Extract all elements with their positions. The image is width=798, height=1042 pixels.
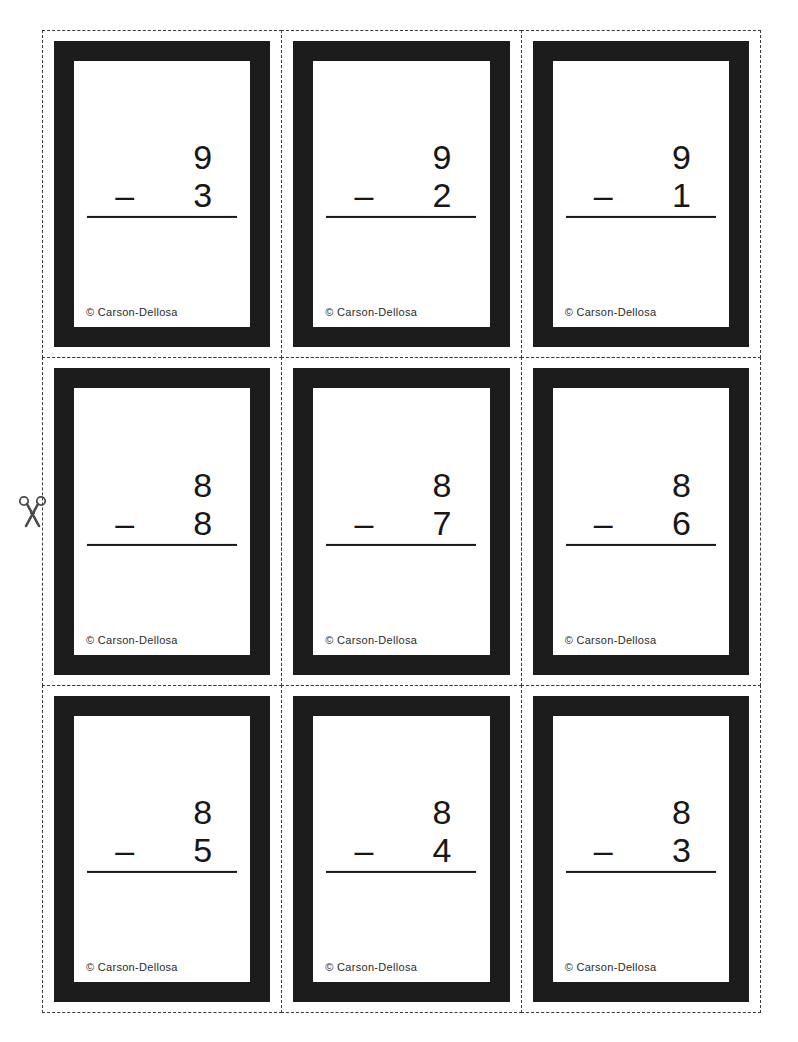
flashcard-face: 8 – 8 © Carson-Dellosa — [74, 388, 250, 654]
minuend: 8 — [87, 793, 237, 831]
flashcard[interactable]: 8 – 8 © Carson-Dellosa — [54, 368, 270, 674]
subtrahend-row: – 8 — [87, 504, 237, 546]
flashcard[interactable]: 8 – 4 © Carson-Dellosa — [293, 696, 509, 1002]
subtrahend: 4 — [433, 831, 453, 869]
subtraction-problem: 9 – 2 — [326, 138, 476, 218]
flashcard-face: 9 – 2 © Carson-Dellosa — [313, 61, 489, 327]
minus-operator: – — [115, 176, 135, 214]
card-cell: 8 – 3 © Carson-Dellosa — [521, 685, 761, 1013]
subtrahend: 6 — [672, 504, 692, 542]
subtrahend-row: – 4 — [326, 831, 476, 873]
subtraction-problem: 8 – 6 — [566, 465, 716, 545]
flashcard-face: 9 – 1 © Carson-Dellosa — [553, 61, 729, 327]
flashcard[interactable]: 9 – 3 © Carson-Dellosa — [54, 41, 270, 347]
subtrahend-row: – 7 — [326, 504, 476, 546]
card-cell: 9 – 2 © Carson-Dellosa — [281, 30, 521, 358]
subtraction-problem: 8 – 5 — [87, 793, 237, 873]
minuend: 9 — [566, 138, 716, 176]
subtrahend-row: – 3 — [87, 176, 237, 218]
minuend: 8 — [326, 793, 476, 831]
subtrahend: 1 — [672, 176, 692, 214]
subtrahend: 2 — [433, 176, 453, 214]
minus-operator: – — [594, 504, 614, 542]
copyright-credit: © Carson-Dellosa — [325, 961, 417, 973]
copyright-credit: © Carson-Dellosa — [86, 306, 178, 318]
card-cell: 8 – 4 © Carson-Dellosa — [281, 685, 521, 1013]
subtrahend: 7 — [433, 504, 453, 542]
card-cell: 9 – 3 © Carson-Dellosa — [42, 30, 282, 358]
subtrahend: 3 — [193, 176, 213, 214]
flashcard-face: 9 – 3 © Carson-Dellosa — [74, 61, 250, 327]
subtraction-problem: 8 – 3 — [566, 793, 716, 873]
minus-operator: – — [354, 504, 374, 542]
flashcard[interactable]: 9 – 1 © Carson-Dellosa — [533, 41, 749, 347]
flashcard[interactable]: 8 – 7 © Carson-Dellosa — [293, 368, 509, 674]
copyright-credit: © Carson-Dellosa — [565, 634, 657, 646]
flashcard-face: 8 – 7 © Carson-Dellosa — [313, 388, 489, 654]
copyright-credit: © Carson-Dellosa — [565, 306, 657, 318]
subtraction-problem: 8 – 4 — [326, 793, 476, 873]
minus-operator: – — [594, 831, 614, 869]
subtrahend-row: – 3 — [566, 831, 716, 873]
subtraction-problem: 9 – 1 — [566, 138, 716, 218]
minus-operator: – — [115, 831, 135, 869]
minuend: 9 — [326, 138, 476, 176]
flashcard-face: 8 – 5 © Carson-Dellosa — [74, 716, 250, 982]
subtraction-problem: 9 – 3 — [87, 138, 237, 218]
subtrahend-row: – 2 — [326, 176, 476, 218]
copyright-credit: © Carson-Dellosa — [86, 961, 178, 973]
minuend: 8 — [326, 465, 476, 503]
flashcard[interactable]: 8 – 6 © Carson-Dellosa — [533, 368, 749, 674]
card-cell: 9 – 1 © Carson-Dellosa — [521, 30, 761, 358]
minuend: 8 — [566, 793, 716, 831]
minus-operator: – — [354, 831, 374, 869]
subtraction-problem: 8 – 7 — [326, 465, 476, 545]
flashcard-face: 8 – 3 © Carson-Dellosa — [553, 716, 729, 982]
subtrahend-row: – 1 — [566, 176, 716, 218]
copyright-credit: © Carson-Dellosa — [565, 961, 657, 973]
minus-operator: – — [115, 504, 135, 542]
minus-operator: – — [354, 176, 374, 214]
minus-operator: – — [594, 176, 614, 214]
copyright-credit: © Carson-Dellosa — [86, 634, 178, 646]
copyright-credit: © Carson-Dellosa — [325, 634, 417, 646]
card-cell: 8 – 8 © Carson-Dellosa — [42, 357, 282, 685]
subtrahend: 5 — [193, 831, 213, 869]
flashcard-face: 8 – 4 © Carson-Dellosa — [313, 716, 489, 982]
flashcard[interactable]: 8 – 3 © Carson-Dellosa — [533, 696, 749, 1002]
subtrahend: 8 — [193, 504, 213, 542]
card-cell: 8 – 6 © Carson-Dellosa — [521, 357, 761, 685]
flashcard[interactable]: 8 – 5 © Carson-Dellosa — [54, 696, 270, 1002]
copyright-credit: © Carson-Dellosa — [325, 306, 417, 318]
flashcard[interactable]: 9 – 2 © Carson-Dellosa — [293, 41, 509, 347]
subtrahend-row: – 5 — [87, 831, 237, 873]
minuend: 8 — [566, 465, 716, 503]
subtraction-problem: 8 – 8 — [87, 465, 237, 545]
card-cell: 8 – 5 © Carson-Dellosa — [42, 685, 282, 1013]
minuend: 8 — [87, 465, 237, 503]
minuend: 9 — [87, 138, 237, 176]
flashcard-grid: 9 – 3 © Carson-Dellosa 9 – — [42, 30, 760, 1012]
subtrahend-row: – 6 — [566, 504, 716, 546]
card-cell: 8 – 7 © Carson-Dellosa — [281, 357, 521, 685]
subtrahend: 3 — [672, 831, 692, 869]
flashcard-worksheet-page: 9 – 3 © Carson-Dellosa 9 – — [0, 0, 798, 1042]
flashcard-face: 8 – 6 © Carson-Dellosa — [553, 388, 729, 654]
